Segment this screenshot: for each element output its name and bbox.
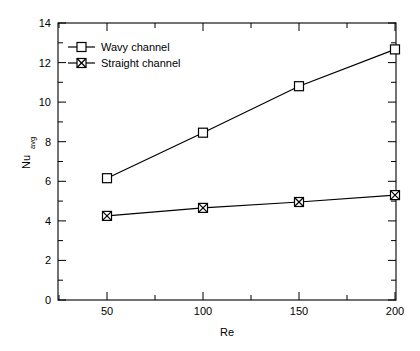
legend-label-straight-channel: Straight channel bbox=[101, 57, 181, 69]
y-tick-label: 12 bbox=[39, 57, 51, 69]
y-tick-label: 10 bbox=[39, 96, 51, 108]
data-point-straight-150 bbox=[295, 198, 304, 207]
data-point-wavy-50 bbox=[103, 174, 112, 183]
y-tick-label: 0 bbox=[45, 294, 51, 306]
y-tick-label: 6 bbox=[45, 175, 51, 187]
legend-label-wavy-channel: Wavy channel bbox=[101, 41, 170, 53]
x-tick-label: 200 bbox=[386, 305, 404, 317]
data-point-wavy-150 bbox=[295, 82, 304, 91]
legend-entry-wavy-channel[interactable]: Wavy channel bbox=[68, 41, 170, 53]
legend-entry-straight-channel[interactable]: Straight channel bbox=[68, 57, 181, 69]
y-tick-label: 2 bbox=[45, 254, 51, 266]
chart-background bbox=[0, 0, 420, 351]
y-axis-title-main: Nu bbox=[20, 155, 32, 169]
legend-marker-open-square bbox=[77, 43, 86, 52]
data-point-straight-50 bbox=[103, 211, 112, 220]
y-tick-label: 8 bbox=[45, 136, 51, 148]
line-chart: 0 2 4 6 8 10 12 14 bbox=[0, 0, 420, 351]
data-point-straight-200 bbox=[391, 191, 400, 200]
y-tick-label: 14 bbox=[39, 17, 51, 29]
x-tick-label: 100 bbox=[194, 305, 212, 317]
x-tick-label: 50 bbox=[101, 305, 113, 317]
data-point-straight-100 bbox=[199, 203, 208, 212]
y-axis-title-subscript: avg bbox=[28, 137, 37, 149]
data-point-wavy-200 bbox=[391, 45, 400, 54]
chart-figure: 0 2 4 6 8 10 12 14 bbox=[0, 0, 420, 351]
y-tick-label: 4 bbox=[45, 215, 51, 227]
data-point-wavy-100 bbox=[199, 128, 208, 137]
x-axis-title: Re bbox=[220, 326, 234, 338]
x-tick-label: 150 bbox=[290, 305, 308, 317]
